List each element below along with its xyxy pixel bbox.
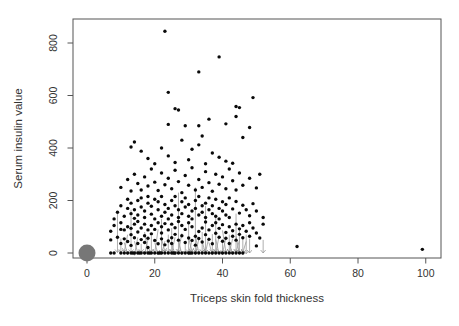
axis-ticks: 0204060801000200400600800 <box>47 34 435 279</box>
data-point <box>126 240 129 243</box>
data-points <box>79 29 425 261</box>
data-point <box>133 236 136 239</box>
data-point-zero <box>214 251 217 254</box>
scatter-plot-figure: 0204060801000200400600800 Triceps skin f… <box>0 0 459 326</box>
data-point <box>211 212 214 215</box>
data-point <box>153 180 156 183</box>
data-point <box>238 227 241 230</box>
data-point <box>160 231 163 234</box>
data-point <box>248 221 251 224</box>
y-tick-label: 0 <box>47 250 59 256</box>
data-point-zero <box>112 251 115 254</box>
data-point <box>173 204 176 207</box>
y-tick-label: 600 <box>47 87 59 105</box>
data-point <box>180 138 183 141</box>
data-point <box>180 191 183 194</box>
data-point <box>177 208 180 211</box>
data-point-zero <box>126 251 129 254</box>
data-point <box>214 173 217 176</box>
data-point <box>156 189 159 192</box>
data-point <box>224 213 227 216</box>
data-point <box>143 234 146 237</box>
data-point-zero <box>123 251 126 254</box>
data-point <box>173 161 176 164</box>
data-point <box>231 179 234 182</box>
y-tick-label: 800 <box>47 34 59 52</box>
data-point <box>136 213 139 216</box>
data-point <box>197 143 200 146</box>
data-point <box>126 197 129 200</box>
data-point <box>241 236 244 239</box>
data-point <box>248 214 251 217</box>
data-point <box>204 216 207 219</box>
data-point <box>167 228 170 231</box>
data-point <box>160 225 163 228</box>
data-point <box>160 146 163 149</box>
y-tick-label: 200 <box>47 192 59 210</box>
data-point <box>184 124 187 127</box>
data-point <box>173 195 176 198</box>
data-point <box>241 224 244 227</box>
data-point <box>143 241 146 244</box>
data-point <box>146 184 149 187</box>
data-point <box>200 204 203 207</box>
data-point <box>200 211 203 214</box>
data-point-zero <box>207 251 210 254</box>
data-point <box>245 208 248 211</box>
data-point-zero <box>167 251 170 254</box>
y-axis-label: Serum insulin value <box>12 88 24 188</box>
data-point <box>133 208 136 211</box>
data-point-zero <box>238 251 241 254</box>
data-point-zero <box>228 251 231 254</box>
data-point <box>112 224 115 227</box>
data-point <box>245 230 248 233</box>
data-point <box>153 228 156 231</box>
data-point <box>112 217 115 220</box>
plot-canvas: 0204060801000200400600800 Triceps skin f… <box>0 0 459 326</box>
data-point <box>221 209 224 212</box>
data-point <box>231 235 234 238</box>
data-point <box>123 215 126 218</box>
data-point <box>194 207 197 210</box>
data-point-zero <box>224 251 227 254</box>
data-point <box>170 199 173 202</box>
data-point <box>129 233 132 236</box>
data-point <box>180 234 183 237</box>
data-point <box>217 217 220 220</box>
data-point-zero <box>184 251 187 254</box>
data-point <box>224 231 227 234</box>
data-point-zero <box>217 251 220 254</box>
data-point <box>234 222 237 225</box>
data-point <box>190 209 193 212</box>
data-point <box>194 243 197 246</box>
data-point <box>221 239 224 242</box>
data-point <box>163 29 166 32</box>
data-point <box>116 211 119 214</box>
data-point <box>136 242 139 245</box>
data-point <box>173 169 176 172</box>
data-point <box>146 201 149 204</box>
data-point-zero <box>119 251 122 254</box>
data-point <box>119 228 122 231</box>
data-point <box>140 196 143 199</box>
data-point <box>190 166 193 169</box>
data-point <box>136 199 139 202</box>
data-point <box>167 239 170 242</box>
data-point-zero <box>204 251 207 254</box>
data-point <box>190 239 193 242</box>
data-point <box>167 123 170 126</box>
data-point <box>207 228 210 231</box>
x-tick-label: 80 <box>352 267 364 279</box>
plot-border <box>73 19 441 258</box>
data-point-zero <box>221 251 224 254</box>
data-point <box>184 174 187 177</box>
data-point <box>238 106 241 109</box>
data-point <box>146 237 149 240</box>
data-point <box>187 236 190 239</box>
data-point <box>143 209 146 212</box>
data-point <box>214 221 217 224</box>
data-point <box>197 124 200 127</box>
data-point <box>146 228 149 231</box>
data-point <box>116 236 119 239</box>
data-point <box>140 238 143 241</box>
